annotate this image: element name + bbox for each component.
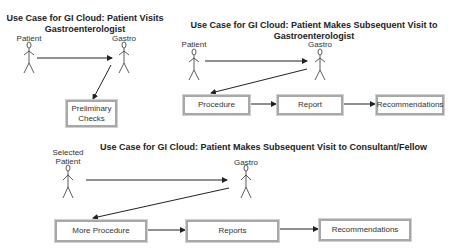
diagram-1-title: Use Case for GI Cloud: Patient Visits Ga… (0, 13, 170, 35)
arrow-gastro-to-procedure (211, 69, 307, 93)
box-preliminary-checks: Preliminary Checks (66, 100, 117, 127)
actor-patient-2-label: Patient (174, 40, 214, 49)
actor-patient-1-figure (24, 42, 34, 73)
diagram-3-title: Use Case for GI Cloud: Patient Makes Sub… (100, 142, 400, 153)
box-reports: Reports (186, 220, 279, 242)
actor-gastro-2-figure (315, 49, 325, 80)
box-recommendations-3: Recommendations (319, 219, 411, 241)
box-preliminary-checks-line1: Preliminary (71, 104, 111, 114)
arrow-gastro-to-checks (93, 65, 111, 99)
box-recommendations-2: Recommendations (376, 95, 444, 115)
actor-selected-patient-figure (63, 165, 73, 198)
actor-selected-patient-label-line1: Selected (46, 148, 90, 157)
actor-gastro-1-label: Gastro (104, 34, 144, 43)
box-more-procedure: More Procedure (55, 220, 147, 242)
arrow-gastro-to-more-procedure (93, 188, 229, 218)
diagram-1-title-line1: Use Case for GI Cloud: Patient Visits (0, 13, 170, 24)
diagram-2-title-line1: Use Case for GI Cloud: Patient Makes Sub… (183, 20, 445, 31)
diagram-2-title: Use Case for GI Cloud: Patient Makes Sub… (183, 20, 445, 42)
actor-selected-patient-label: Selected Patient (46, 148, 90, 166)
actor-patient-1-label: Patient (9, 34, 49, 43)
actor-gastro-3-label: Gastro (226, 158, 266, 167)
actor-gastro-2-label: Gastro (300, 40, 340, 49)
actor-gastro-1-figure (119, 42, 129, 73)
actor-selected-patient-label-line2: Patient (46, 157, 90, 166)
actor-patient-2-figure (189, 49, 199, 80)
box-procedure: Procedure (183, 95, 250, 115)
actor-gastro-3-figure (241, 165, 251, 198)
box-preliminary-checks-line2: Checks (78, 114, 105, 124)
box-report: Report (277, 95, 343, 115)
